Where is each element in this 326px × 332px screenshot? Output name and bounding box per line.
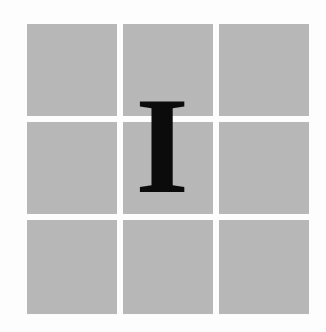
drop-cap-letter: I xyxy=(129,88,195,204)
grid-cell-r3c3 xyxy=(219,220,309,314)
grid-cell-r2c3 xyxy=(219,122,309,214)
grid-cell-r1c1 xyxy=(27,24,117,116)
grid-cell-r3c2 xyxy=(123,220,213,314)
grid-cell-r3c1 xyxy=(27,220,117,314)
grid-cell-r2c1 xyxy=(27,122,117,214)
grid-cell-r1c3 xyxy=(219,24,309,116)
